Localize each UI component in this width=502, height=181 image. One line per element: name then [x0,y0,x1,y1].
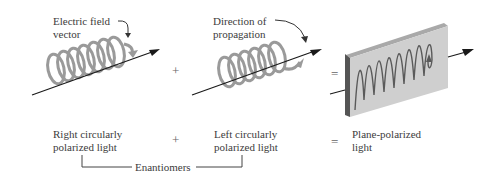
enantiomers-label: Enantiomers [135,161,191,174]
direction-label: Direction of propagation [213,15,266,41]
electric-field-pointer [118,21,128,34]
electric-field-label: Electric field vector [53,15,110,41]
plus-operator-top: + [172,63,179,79]
plane-polarized-plate [330,23,474,117]
equals-operator-top: = [331,66,338,82]
right-circular-label: Right circularly polarized light [53,128,122,154]
direction-pointer [275,20,305,38]
right-circular-helix [32,36,160,95]
plus-operator-bottom: + [172,132,179,148]
left-circular-label: Left circularly polarized light [214,128,278,154]
equals-operator-bottom: = [331,134,338,150]
left-circular-helix [192,41,322,95]
plane-polarized-label: Plane-polarized light [352,128,421,154]
